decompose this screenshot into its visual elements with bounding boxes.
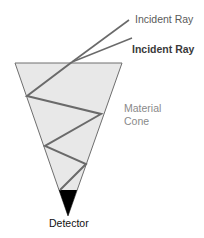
incident-ray-label-1: Incident Ray <box>135 14 193 25</box>
detector-shape <box>59 190 77 216</box>
incident-ray-1-line <box>72 20 129 62</box>
incident-ray-2-line <box>72 38 132 62</box>
material-cone-label: Material Cone <box>124 102 161 128</box>
material-cone-label-line2: Cone <box>124 115 161 128</box>
incident-ray-label-2: Incident Ray <box>132 44 194 55</box>
detector-label: Detector <box>49 218 89 229</box>
material-cone-label-line1: Material <box>124 102 161 115</box>
material-cone-diagram <box>0 0 204 238</box>
